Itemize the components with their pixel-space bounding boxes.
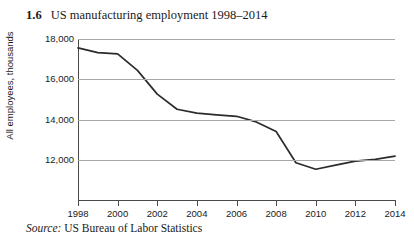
x-axis-tick-label: 2014	[375, 208, 414, 220]
x-axis-tick	[78, 201, 79, 206]
y-axis-tick-label: 16,000	[30, 74, 74, 84]
gridline	[78, 120, 395, 121]
x-axis-tick	[197, 201, 198, 206]
x-axis-tick	[316, 201, 317, 206]
plot-area	[78, 39, 395, 200]
gridline	[78, 39, 395, 40]
x-axis-tick	[237, 201, 238, 206]
x-axis-tick-labels: 199820002002200420062008201020122014	[0, 208, 414, 222]
page-title: 1.6US manufacturing employment 1998–2014	[26, 6, 406, 24]
x-axis-tick-label: 2008	[256, 208, 296, 220]
source-label: Source:	[26, 222, 61, 234]
line-chart: 12,00014,00016,00018,000 All employees, …	[0, 24, 414, 210]
x-axis-tick-label: 2002	[137, 208, 177, 220]
figure-number: 1.6	[26, 8, 42, 22]
figure-container: 1.6US manufacturing employment 1998–2014…	[0, 0, 414, 246]
x-axis-tick-label: 2012	[335, 208, 375, 220]
figure-title-text: US manufacturing employment 1998–2014	[51, 8, 268, 22]
y-axis-title: All employees, thousands	[4, 11, 15, 161]
series-polyline	[78, 48, 395, 169]
x-axis-tick-label: 2010	[296, 208, 336, 220]
y-axis-tick-label: 12,000	[30, 155, 74, 165]
x-axis-tick-label: 1998	[58, 208, 98, 220]
x-axis-tick-label: 2004	[177, 208, 217, 220]
gridline	[78, 79, 395, 80]
x-axis-tick-label: 2000	[98, 208, 138, 220]
y-axis-tick-label: 14,000	[30, 115, 74, 125]
x-axis-tick-label: 2006	[217, 208, 257, 220]
x-axis-tick	[276, 201, 277, 206]
x-axis-tick	[355, 201, 356, 206]
x-axis-tick	[395, 201, 396, 206]
x-axis-tick	[118, 201, 119, 206]
x-axis-tick	[157, 201, 158, 206]
gridline	[78, 160, 395, 161]
source-note: Source: US Bureau of Labor Statistics	[26, 222, 406, 234]
y-axis-tick-labels: 12,00014,00016,00018,000	[26, 24, 74, 210]
y-axis-tick-label: 18,000	[30, 34, 74, 44]
source-text: US Bureau of Labor Statistics	[64, 222, 202, 234]
